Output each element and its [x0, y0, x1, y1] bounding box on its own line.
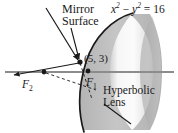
hyperbolic-lens-figure: Mirror Surface x2 − y2 = 16 (5, 3) F2 F1…: [0, 0, 178, 133]
focus-2-dot: [42, 70, 47, 75]
focus-2-letter: F: [22, 78, 29, 90]
focus-2-subscript: 2: [29, 84, 33, 93]
equation-minus-operator: −: [120, 3, 132, 15]
focus-2-label: F2: [22, 79, 33, 93]
equation-right-hand-side: = 16: [141, 3, 165, 15]
focus-1-dot: [86, 69, 91, 74]
focus-1-label: F1: [86, 77, 97, 91]
focus-1-subscript: 1: [93, 82, 97, 91]
mirror-surface-label: Mirror Surface: [62, 3, 99, 28]
hyperbola-equation-label: x2 − y2 = 16: [111, 2, 165, 16]
mirror-surface-label-line2: Surface: [62, 15, 99, 27]
hyperbolic-lens-label-line1: Hyperbolic: [103, 84, 155, 96]
focus-1-letter: F: [86, 76, 93, 88]
point-coordinate-label: (5, 3): [84, 53, 108, 64]
reflection-point-dot: [77, 59, 82, 64]
hyperbolic-lens-label-line2: Lens: [103, 97, 155, 109]
hyperbolic-lens-label: Hyperbolic Lens: [103, 85, 155, 109]
